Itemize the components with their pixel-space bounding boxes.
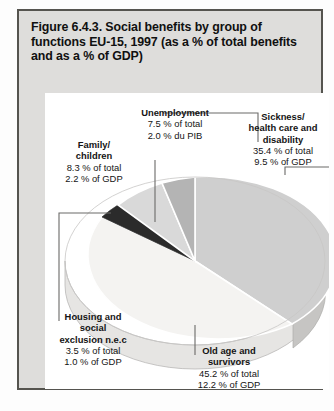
label-housing-total: 3.5 % of total <box>37 345 149 356</box>
label-sickness: Sickness/ health care and disability 35.… <box>227 111 334 167</box>
figure-panel: Figure 6.4.3. Social benefits by group o… <box>17 9 323 390</box>
label-housing: Housing and social exclusion n.e.c 3.5 %… <box>37 311 149 367</box>
label-housing-gdp: 1.0 % of GDP <box>37 356 149 367</box>
label-unemployment-title: Unemployment <box>127 107 223 118</box>
label-sickness-title-2: health care and <box>227 122 334 133</box>
label-family-title-1: Family/ <box>41 139 147 150</box>
label-unemployment: Unemployment 7.5 % of total 2.0 % du PIB <box>127 107 223 141</box>
label-family-title-2: children <box>41 150 147 161</box>
label-sickness-total: 35.4 % of total <box>227 145 334 156</box>
label-old-age-title-2: survivors <box>165 356 293 367</box>
label-sickness-title-3: disability <box>227 134 334 145</box>
label-old-age-total: 45.2 % of total <box>165 368 293 379</box>
label-family-gdp: 2.2 % of GDP <box>41 173 147 184</box>
leader-line-sickness <box>285 167 329 175</box>
label-housing-title-2: social <box>37 322 149 333</box>
label-old-age-title-1: Old age and <box>165 345 293 356</box>
label-old-age-gdp: 12.2 % of GDP <box>165 379 293 390</box>
label-family: Family/ children 8.3 % of total 2.2 % of… <box>41 139 147 184</box>
label-sickness-title-1: Sickness/ <box>227 111 334 122</box>
figure-title: Figure 6.4.3. Social benefits by group o… <box>31 20 313 64</box>
label-housing-title-3: exclusion n.e.c <box>37 334 149 345</box>
figure-container: Figure 6.4.3. Social benefits by group o… <box>0 0 334 411</box>
label-family-total: 8.3 % of total <box>41 162 147 173</box>
label-sickness-gdp: 9.5 % of GDP <box>227 156 334 167</box>
label-housing-title-1: Housing and <box>37 311 149 322</box>
label-old-age: Old age and survivors 45.2 % of total 12… <box>165 345 293 390</box>
label-unemployment-total: 7.5 % of total <box>127 118 223 129</box>
